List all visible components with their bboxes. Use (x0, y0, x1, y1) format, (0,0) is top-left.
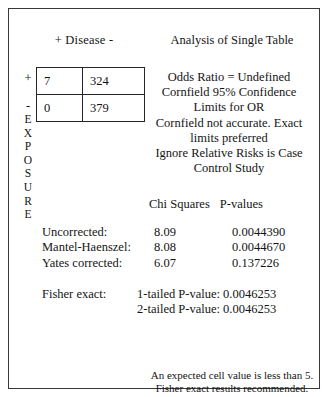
table-row: Mantel-Haenszel: 8.08 0.0044670 (42, 240, 322, 255)
fisher-exact-label: Fisher exact: (42, 287, 106, 302)
summary-line: Limits for OR (131, 100, 327, 115)
exposure-letter: E (22, 113, 34, 127)
exposure-letter: P (22, 140, 34, 154)
dialog-panel: + Disease - + - 7 324 0 379 E X P O S U … (8, 8, 320, 389)
stat-label: Mantel-Haenszel: (42, 240, 131, 255)
fisher-exact-block: Fisher exact: 1-tailed P-value: 0.004625… (42, 287, 322, 318)
table-row: 7 324 (37, 68, 145, 95)
table-row: Fisher exact: 1-tailed P-value: 0.004625… (42, 287, 322, 302)
stats-table: Uncorrected: 8.09 0.0044390 Mantel-Haens… (42, 225, 322, 271)
table-row: 2-tailed P-value: 0.0046253 (42, 302, 322, 317)
exposure-letter: U (22, 181, 34, 195)
stats-column-headers: Chi SquaresP-values (149, 197, 263, 212)
table-row: Yates corrected: 6.07 0.137226 (42, 256, 322, 271)
summary-line: Cornfield 95% Confidence (131, 85, 327, 100)
contingency-table: 7 324 0 379 (36, 67, 145, 122)
exposure-letter: O (22, 154, 34, 168)
disease-column-header: + Disease - (29, 33, 139, 48)
exposure-letter: X (22, 127, 34, 141)
table-row: 0 379 (37, 95, 145, 122)
analysis-summary: Odds Ratio = Undefined Cornfield 95% Con… (131, 70, 327, 176)
exposure-letter: E (22, 208, 34, 222)
warning-note-line: Fisher exact results recommended. (139, 382, 325, 395)
table-row: Uncorrected: 8.09 0.0044390 (42, 225, 322, 240)
p-values-header: P-values (220, 197, 263, 212)
stat-p-value: 0.0044390 (232, 225, 285, 240)
stat-p-value: 0.0044670 (232, 240, 285, 255)
exposure-axis-label: E X P O S U R E (22, 113, 34, 222)
exposure-letter: S (22, 167, 34, 181)
stat-chi-value: 8.08 (154, 240, 176, 255)
warning-note: An expected cell value is less than 5. F… (139, 369, 325, 396)
summary-line: limits preferred (131, 131, 327, 146)
summary-line: Ignore Relative Risks is Case (131, 146, 327, 161)
exposure-letter: R (22, 195, 34, 209)
chi-squares-header: Chi Squares (149, 197, 210, 212)
warning-note-line: An expected cell value is less than 5. (139, 369, 325, 382)
stat-label: Yates corrected: (42, 256, 122, 271)
exposure-row-plus-label: + (23, 72, 33, 85)
summary-line: Control Study (131, 161, 327, 176)
cell-a: 7 (37, 68, 83, 95)
summary-line: Odds Ratio = Undefined (131, 70, 327, 85)
stat-chi-value: 6.07 (154, 256, 176, 271)
stat-label: Uncorrected: (42, 225, 107, 240)
page-title: Analysis of Single Table (139, 33, 325, 48)
analysis-window: + Disease - + - 7 324 0 379 E X P O S U … (0, 0, 332, 397)
exposure-row-minus-label: - (23, 100, 33, 113)
fisher-two-tailed-value: 2-tailed P-value: 0.0046253 (137, 302, 276, 317)
fisher-one-tailed-value: 1-tailed P-value: 0.0046253 (137, 287, 276, 302)
summary-line: Cornfield not accurate. Exact (131, 116, 327, 131)
stat-p-value: 0.137226 (232, 256, 279, 271)
stat-chi-value: 8.09 (154, 225, 176, 240)
cell-c: 0 (37, 95, 83, 122)
